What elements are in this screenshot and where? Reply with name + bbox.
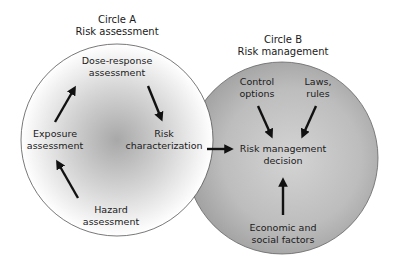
node-economic-line1: Economic and — [250, 222, 317, 234]
circle-b-title-line1: Circle B — [238, 34, 329, 46]
node-laws-rules: Laws, rules — [305, 76, 332, 99]
node-control-line2: options — [240, 88, 275, 100]
node-exposure-line1: Exposure — [27, 128, 83, 140]
node-risk-char-line2: characterization — [125, 140, 202, 152]
node-dose-response-line2: assessment — [82, 67, 153, 79]
node-laws-line1: Laws, — [305, 76, 332, 88]
circle-a-title: Circle A Risk assessment — [75, 14, 158, 38]
node-exposure: Exposure assessment — [27, 128, 83, 151]
node-hazard: Hazard assessment — [83, 204, 139, 227]
circle-b-title-line2: Risk management — [238, 46, 329, 58]
node-risk-char-line1: Risk — [125, 128, 202, 140]
node-control-options: Control options — [240, 76, 275, 99]
node-hazard-line1: Hazard — [83, 204, 139, 216]
circle-a-title-line1: Circle A — [75, 14, 158, 26]
node-control-line1: Control — [240, 76, 275, 88]
circle-b-title: Circle B Risk management — [238, 34, 329, 58]
node-economic-line2: social factors — [250, 234, 317, 246]
node-decision-line1: Risk management — [240, 143, 326, 155]
risk-diagram: Circle A Risk assessment Dose-response a… — [0, 0, 393, 266]
node-risk-characterization: Risk characterization — [125, 128, 202, 151]
circle-a-title-line2: Risk assessment — [75, 26, 158, 38]
node-economic-social: Economic and social factors — [250, 222, 317, 245]
node-dose-response-line1: Dose-response — [82, 55, 153, 67]
node-exposure-line2: assessment — [27, 140, 83, 152]
node-dose-response: Dose-response assessment — [82, 55, 153, 78]
node-hazard-line2: assessment — [83, 216, 139, 228]
node-risk-management-decision: Risk management decision — [240, 143, 326, 166]
node-laws-line2: rules — [305, 88, 332, 100]
node-decision-line2: decision — [240, 155, 326, 167]
